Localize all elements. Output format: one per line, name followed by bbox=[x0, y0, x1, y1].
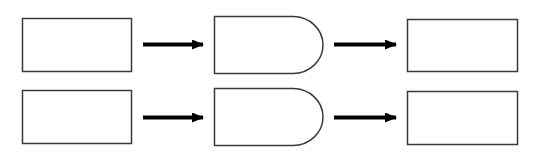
process-box-row1-left bbox=[23, 19, 132, 72]
process-box-row1-right bbox=[408, 20, 518, 72]
delay-shape-row1 bbox=[215, 17, 324, 74]
process-box-row2-right bbox=[408, 92, 518, 145]
flow-diagram bbox=[0, 0, 536, 157]
delay-shape-row2 bbox=[215, 89, 324, 146]
process-box-row2-left bbox=[23, 91, 132, 144]
row-2 bbox=[23, 89, 518, 146]
row-1 bbox=[23, 17, 518, 74]
